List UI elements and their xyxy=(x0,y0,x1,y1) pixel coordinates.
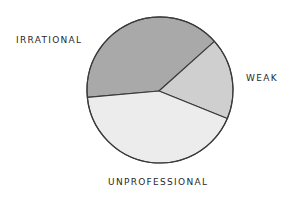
pie-chart: IRRATIONAL WEAK UNPROFESSIONAL xyxy=(0,0,296,200)
pie-slices xyxy=(87,17,233,163)
slice-label-weak: WEAK xyxy=(246,73,278,84)
slice-label-irrational: IRRATIONAL xyxy=(16,35,82,46)
slice-label-unprofessional: UNPROFESSIONAL xyxy=(108,177,208,188)
pie-chart-canvas xyxy=(0,0,296,200)
